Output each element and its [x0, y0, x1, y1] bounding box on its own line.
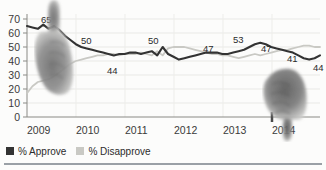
y-tick-10: 10: [8, 97, 20, 109]
point-label-44-a: 44: [107, 65, 118, 76]
approval-rating-chart: 70 60 50 40 30 20 10 0 2009 2010 2011 20…: [0, 0, 326, 170]
y-tick-30: 30: [8, 69, 20, 81]
chart-canvas: 70 60 50 40 30 20 10 0 2009 2010 2011 20…: [0, 0, 326, 148]
point-label-53: 53: [233, 34, 244, 45]
point-label-50-b: 50: [148, 35, 159, 46]
legend-item-disapprove[interactable]: % Disapprove: [76, 146, 150, 157]
y-tick-70: 70: [8, 13, 20, 25]
y-tick-50: 50: [8, 41, 20, 53]
legend-swatch-disapprove: [76, 147, 84, 155]
chart-legend: % Approve % Disapprove: [6, 144, 151, 158]
point-label-47-b: 47: [261, 43, 272, 54]
vertical-gridlines: [76, 14, 272, 117]
bottom-divider: [4, 163, 322, 165]
plot-area: 70 60 50 40 30 20 10 0 2009 2010 2011 20…: [0, 0, 326, 148]
point-label-50-a: 50: [81, 35, 92, 46]
y-axis-ticks: [23, 19, 27, 117]
x-tick-2013: 2013: [223, 124, 247, 136]
point-label-47-a: 47: [203, 43, 214, 54]
point-label-44-b: 44: [313, 62, 324, 73]
x-tick-2014: 2014: [272, 124, 296, 136]
y-tick-40: 40: [8, 55, 20, 67]
x-tick-2012: 2012: [174, 124, 198, 136]
x-tick-2010: 2010: [76, 124, 100, 136]
y-tick-60: 60: [8, 27, 20, 39]
x-tick-2009: 2009: [27, 124, 51, 136]
legend-label-approve: % Approve: [18, 146, 66, 157]
legend-swatch-approve: [6, 147, 14, 155]
x-tick-2011: 2011: [125, 124, 148, 136]
y-tick-20: 20: [8, 83, 20, 95]
point-label-65: 65: [41, 14, 52, 25]
point-label-41: 41: [287, 53, 298, 64]
legend-label-disapprove: % Disapprove: [88, 146, 150, 157]
legend-item-approve[interactable]: % Approve: [6, 146, 66, 157]
y-tick-0: 0: [14, 111, 20, 123]
